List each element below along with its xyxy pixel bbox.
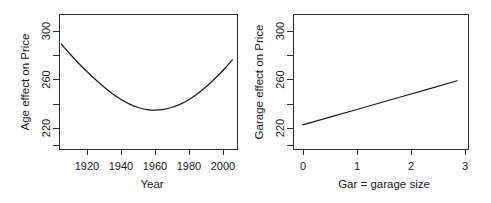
panel-garage-effect: 300 260 220 Garage effect on Price 0 1 2…	[246, 0, 491, 203]
left-xtick-label-1980: 1980	[177, 160, 201, 172]
right-plot-box	[294, 15, 469, 150]
right-ytick-label-220: 220	[274, 119, 286, 137]
right-x-tick-labels: 0 1 2 3	[300, 160, 468, 172]
right-y-axis-title: Garage effect on Price	[253, 25, 265, 140]
left-xtick-label-1920: 1920	[75, 160, 99, 172]
left-y-tick-labels: 300 260 220	[40, 22, 52, 137]
age-effect-curve	[61, 44, 232, 110]
left-ytick-label-300: 300	[40, 22, 52, 40]
right-xtick-label-2: 2	[408, 160, 414, 172]
right-xtick-label-3: 3	[462, 160, 468, 172]
left-xtick-label-2000: 2000	[211, 160, 235, 172]
right-xtick-label-1: 1	[354, 160, 360, 172]
left-x-tick-labels: 1920 1940 1960 1980 2000	[75, 160, 235, 172]
right-ytick-label-300: 300	[274, 22, 286, 40]
left-xtick-label-1960: 1960	[143, 160, 167, 172]
right-ytick-label-260: 260	[274, 70, 286, 88]
right-y-tick-labels: 300 260 220	[274, 22, 286, 137]
right-y-axis-ticks	[287, 31, 293, 145]
age-effect-chart-svg: 300 260 220 Age effect on Price 1920 194…	[0, 0, 245, 203]
left-y-axis-ticks	[53, 31, 59, 145]
left-y-axis-title: Age effect on Price	[19, 34, 31, 131]
two-panel-effect-plots: 300 260 220 Age effect on Price 1920 194…	[0, 0, 491, 203]
right-xtick-label-0: 0	[300, 160, 306, 172]
left-x-axis-title: Year	[140, 178, 163, 190]
panel-age-effect: 300 260 220 Age effect on Price 1920 194…	[0, 0, 245, 203]
left-ytick-label-220: 220	[40, 119, 52, 137]
right-plot-frame	[294, 15, 469, 150]
garage-effect-line	[303, 81, 457, 125]
garage-effect-chart-svg: 300 260 220 Garage effect on Price 0 1 2…	[246, 0, 491, 203]
left-xtick-label-1940: 1940	[109, 160, 133, 172]
right-x-axis-title: Gar = garage size	[338, 178, 430, 190]
left-ytick-label-260: 260	[40, 70, 52, 88]
